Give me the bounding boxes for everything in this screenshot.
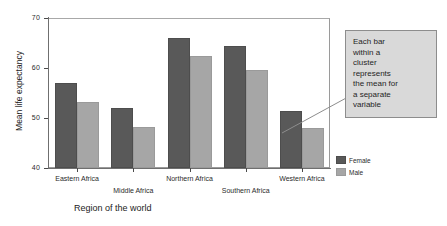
bar-chart-figure: Mean life expectancy 40506070 Eastern Af… xyxy=(0,0,447,226)
x-axis-title: Region of the world xyxy=(74,203,152,213)
y-tick-label: 40 xyxy=(32,164,40,171)
x-tick-label: Eastern Africa xyxy=(55,175,99,182)
y-tick xyxy=(44,118,48,119)
legend-label: Female xyxy=(349,157,371,164)
bar-eastern-africa-female xyxy=(55,83,77,168)
bar-northern-africa-female xyxy=(168,38,190,168)
callout-box: Each bar within a cluster represents the… xyxy=(345,30,437,118)
x-tick-label: Southern Africa xyxy=(222,187,270,194)
bar-southern-africa-male xyxy=(246,70,268,169)
x-tick xyxy=(302,168,303,172)
x-tick-label: Middle Africa xyxy=(113,187,153,194)
x-tick-label: Northern Africa xyxy=(166,175,213,182)
bar-southern-africa-female xyxy=(224,46,246,169)
x-tick xyxy=(133,168,134,172)
y-tick-label: 60 xyxy=(32,64,40,71)
bar-middle-africa-female xyxy=(111,108,133,168)
x-tick xyxy=(190,168,191,172)
y-tick xyxy=(44,168,48,169)
legend-item-female: Female xyxy=(336,156,371,164)
y-tick xyxy=(44,18,48,19)
x-tick-label: Western Africa xyxy=(279,175,324,182)
y-tick xyxy=(44,68,48,69)
legend-swatch-icon xyxy=(336,156,346,164)
bars-layer xyxy=(49,18,330,168)
y-tick-label: 70 xyxy=(32,14,40,21)
legend-swatch-icon xyxy=(336,168,346,176)
x-tick xyxy=(246,168,247,172)
bar-eastern-africa-male xyxy=(77,102,99,169)
bar-western-africa-female xyxy=(280,111,302,169)
y-tick-label: 50 xyxy=(32,114,40,121)
legend-item-male: Male xyxy=(336,168,371,176)
legend-label: Male xyxy=(349,169,363,176)
callout-text: Each bar within a cluster represents the… xyxy=(353,37,431,111)
x-tick xyxy=(77,168,78,172)
legend: FemaleMale xyxy=(336,156,371,176)
bar-western-africa-male xyxy=(302,128,324,168)
bar-middle-africa-male xyxy=(133,127,155,168)
bar-northern-africa-male xyxy=(190,56,212,169)
y-axis-title: Mean life expectancy xyxy=(14,31,24,151)
